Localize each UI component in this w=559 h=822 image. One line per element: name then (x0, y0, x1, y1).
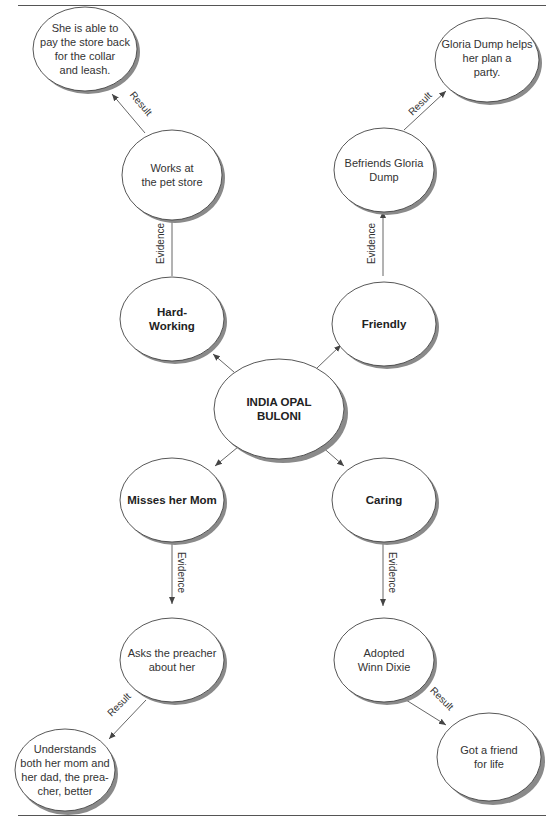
edge-center-friendly (317, 345, 341, 368)
edge-center-misses-mom (215, 447, 238, 466)
edge-label-evidence-caring: Evidence (387, 548, 398, 598)
node-friendly-text: Friendly (334, 314, 434, 334)
node-winn-dixie-text: Adopted Winn Dixie (334, 640, 434, 680)
node-pay-back-text: She is able to pay the store back for th… (30, 15, 140, 83)
node-caring-text: Caring (334, 490, 434, 510)
edge-label-evidence-friendly: Evidence (366, 219, 377, 269)
node-party-text: Gloria Dump helps her plan a party. (432, 33, 542, 83)
node-center-text: INDIA OPAL BULONI (214, 389, 344, 429)
node-pet-store-text: Works at the pet store (122, 155, 222, 195)
edge-label-evidence-misses-mom: Evidence (176, 548, 187, 598)
node-friend-text: Got a friend for life (439, 737, 539, 777)
edge-center-hardworking (213, 354, 234, 372)
node-misses-mom-text: Misses her Mom (118, 490, 226, 510)
node-preacher-text: Asks the preacher about her (118, 640, 226, 680)
node-gloria-text: Befriends Gloria Dump (332, 150, 436, 190)
node-understands-text: Understands both her mom and her dad, th… (12, 736, 118, 804)
node-hard-working-text: Hard- Working (122, 299, 222, 339)
edge-label-evidence-hardworking: Evidence (155, 219, 166, 269)
